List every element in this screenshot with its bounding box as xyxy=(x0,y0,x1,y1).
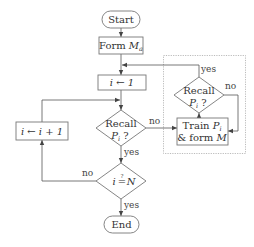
flowchart-canvas: Start Form Ma i ← 1 Recall Pi ? i ← i + … xyxy=(0,0,254,247)
edge-label-recall-inner-yes: yes xyxy=(200,64,216,74)
edge-label-check-n-yes: yes xyxy=(123,200,139,210)
check-n-right: N xyxy=(126,176,137,187)
start-label: Start xyxy=(108,14,134,25)
recall-inner-line1: Recall xyxy=(183,85,214,96)
end-label: End xyxy=(111,219,132,230)
edge-label-recall-main-yes: yes xyxy=(123,147,139,157)
node-train: Train Pi & form M xyxy=(177,118,228,145)
edge-label-check-n-no: no xyxy=(82,168,93,178)
node-end: End xyxy=(104,216,139,233)
node-recall-inner: Recall Pi ? xyxy=(174,77,224,113)
check-n-left: i xyxy=(112,176,115,187)
increment-label: i ← i + 1 xyxy=(21,126,63,137)
check-n-op-over: ? xyxy=(121,173,124,179)
edge-label-recall-main-no: no xyxy=(149,116,160,126)
node-check-n: i = ? N xyxy=(96,163,146,199)
edge-label-recall-inner-no: no xyxy=(225,81,236,91)
node-start: Start xyxy=(102,11,140,28)
train-line2: & form M xyxy=(177,132,227,143)
node-recall-main: Recall Pi ? xyxy=(96,110,146,146)
node-init-i: i ← 1 xyxy=(98,75,146,90)
recall-main-line1: Recall xyxy=(105,118,136,129)
node-increment: i ← i + 1 xyxy=(16,122,68,140)
node-form-ma: Form Ma xyxy=(99,37,143,54)
init-i-label: i ← 1 xyxy=(110,77,134,88)
